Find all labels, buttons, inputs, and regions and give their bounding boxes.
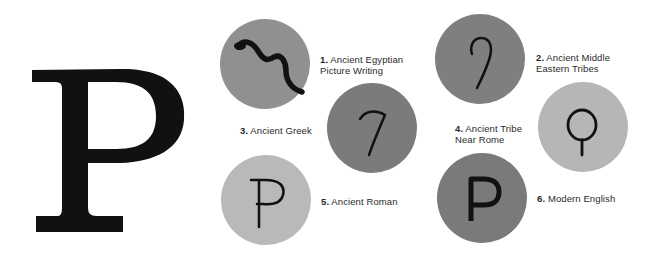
stage-3-circle <box>327 83 417 173</box>
roman-p-glyph-icon <box>221 155 311 245</box>
stage-5-label: 5. Ancient Roman <box>321 197 398 208</box>
stage-1-label: 1. Ancient EgyptianPicture Writing <box>320 55 403 76</box>
stage-4-label: 4. Ancient TribeNear Rome <box>455 124 522 145</box>
big-letter-p <box>28 52 198 232</box>
stage-3-label: 3. Ancient Greek <box>240 126 312 137</box>
stage-2-circle <box>435 14 525 104</box>
gamma-hook-glyph-icon <box>327 83 417 173</box>
stage-1-circle <box>220 19 310 109</box>
modern-p-glyph-icon <box>437 153 527 243</box>
stage-6-circle <box>437 153 527 243</box>
snake-glyph-icon <box>220 19 310 109</box>
hook-glyph-icon <box>435 14 525 104</box>
stage-4-circle <box>538 82 628 172</box>
loop-stem-glyph-icon <box>538 82 628 172</box>
stage-2-label: 2. Ancient MiddleEastern Tribes <box>536 53 610 74</box>
stage-5-circle <box>221 155 311 245</box>
stage-6-label: 6. Modern English <box>537 194 615 205</box>
